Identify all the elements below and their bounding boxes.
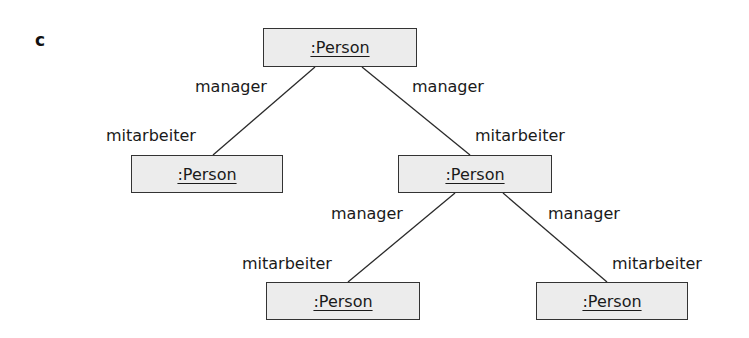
person-object-root: :Person [263,28,417,67]
role-label-mitarbeiter: mitarbeiter [106,127,196,145]
person-object-bottom-right: :Person [536,282,688,320]
object-name: :Person [582,292,641,311]
object-name: :Person [445,165,504,184]
person-object-right-mid: :Person [398,155,552,193]
role-label-manager: manager [195,78,267,96]
person-object-bottom-left: :Person [266,282,420,320]
role-label-manager: manager [412,78,484,96]
object-name: :Person [177,165,236,184]
person-object-left-mid: :Person [131,155,283,193]
panel-label: c [35,30,45,50]
object-name: :Person [310,38,369,57]
role-label-manager: manager [331,205,403,223]
role-label-mitarbeiter: mitarbeiter [242,255,332,273]
role-label-mitarbeiter: mitarbeiter [475,127,565,145]
object-name: :Person [313,292,372,311]
role-label-mitarbeiter: mitarbeiter [612,255,702,273]
role-label-manager: manager [548,205,620,223]
